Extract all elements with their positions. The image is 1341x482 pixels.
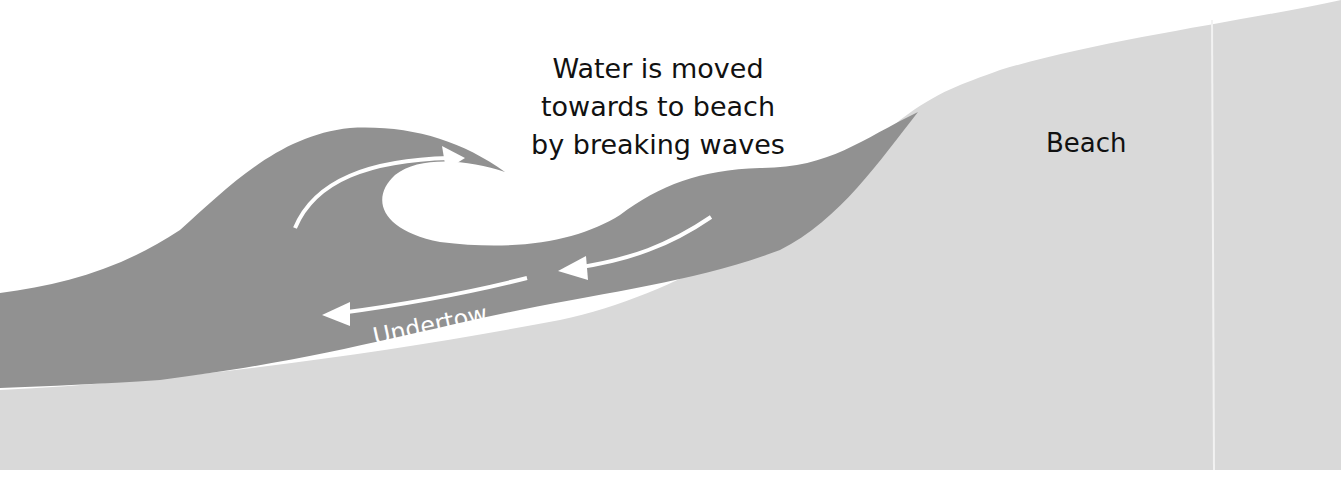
beach-label: Beach [1046,128,1127,158]
wave-caption: Water is moved towards to beach by break… [498,50,818,164]
caption-line-3: by breaking waves [498,126,818,164]
caption-line-1: Water is moved [498,50,818,88]
caption-line-2: towards to beach [498,88,818,126]
